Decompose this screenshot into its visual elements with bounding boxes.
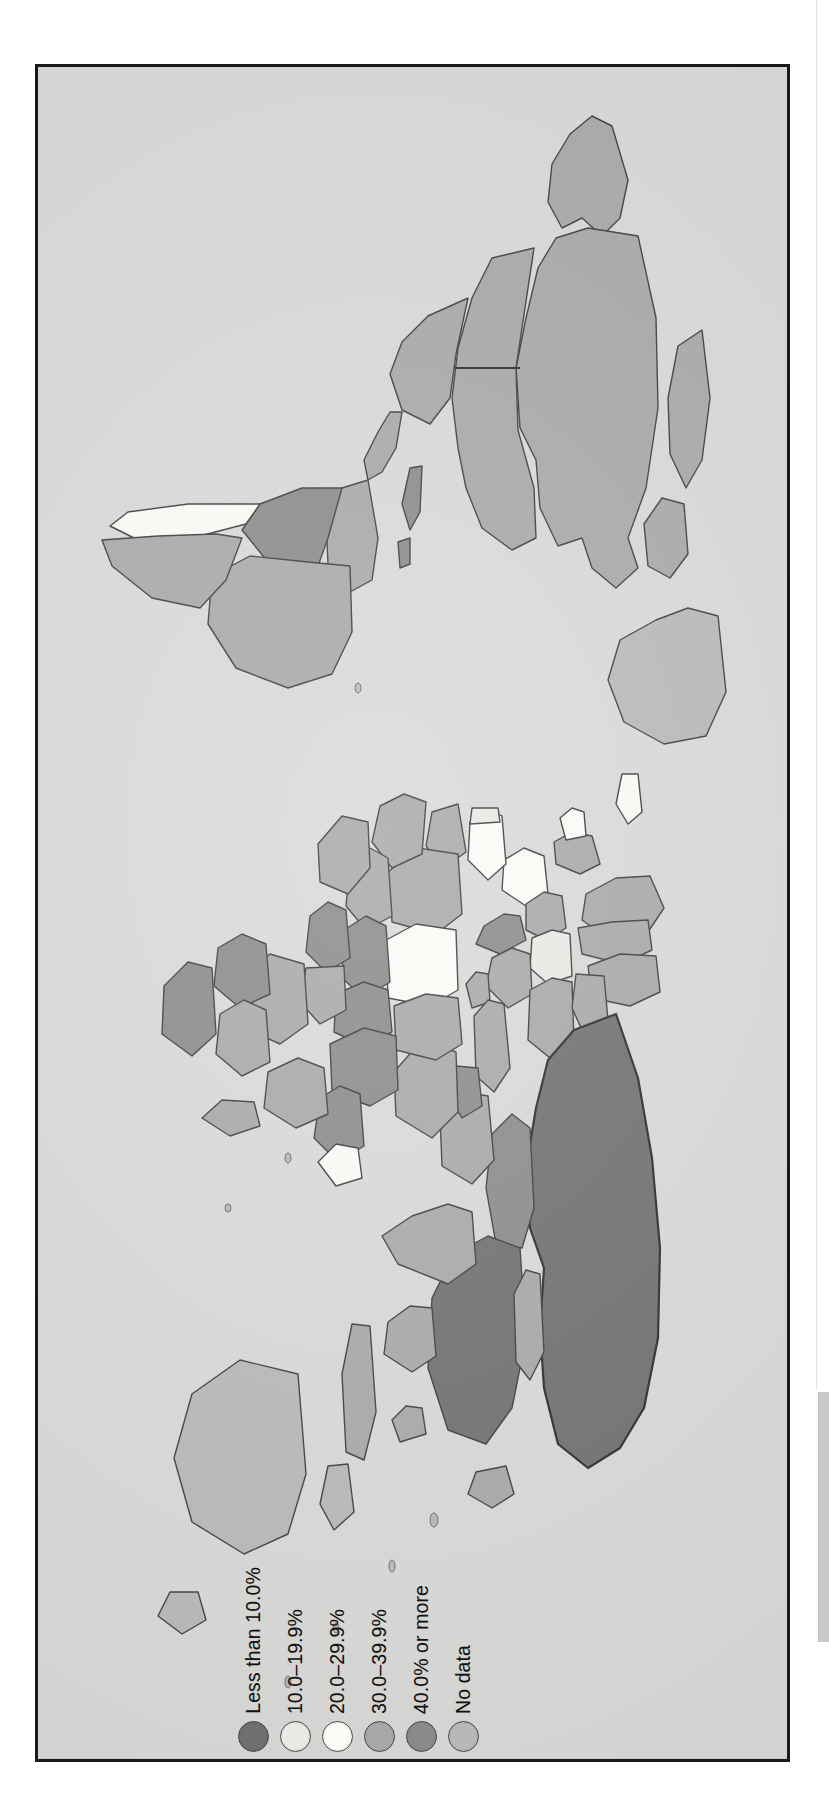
legend-item-20-to-29[interactable]: 20.0–29.9% <box>322 1609 353 1752</box>
region-portugal <box>470 808 500 824</box>
legend-item-30-to-39[interactable]: 30.0–39.9% <box>364 1609 395 1752</box>
legend-swatch-circle <box>406 1721 437 1752</box>
map-figure-frame: .ct{stroke:#3c3c3c;stroke-width:1.4;stro… <box>35 64 790 1762</box>
legend-swatch-circle <box>280 1721 311 1752</box>
region-mongolia <box>514 1270 544 1380</box>
legend-label: 20.0–29.9% <box>326 1609 349 1714</box>
legend-label: 10.0–19.9% <box>284 1609 307 1714</box>
legend-swatch-circle <box>448 1721 479 1752</box>
legend-swatch-circle <box>322 1721 353 1752</box>
map-description: World choropleth map shaded in six grey … <box>0 0 1 1</box>
region-egypt <box>394 994 462 1060</box>
legend-label: Less than 10.0% <box>242 1567 265 1714</box>
region-kazakhstan <box>486 1114 534 1248</box>
map-rotated-canvas: .ct{stroke:#3c3c3c;stroke-width:1.4;stro… <box>38 68 788 1758</box>
legend-label: No data <box>452 1645 475 1714</box>
world-map-svg: .ct{stroke:#3c3c3c;stroke-width:1.4;stro… <box>38 68 788 1758</box>
legend-swatch-circle <box>364 1721 395 1752</box>
legend-swatch-circle <box>238 1721 269 1752</box>
legend-label: 40.0% or more <box>410 1585 433 1714</box>
legend-item-40-or-more[interactable]: 40.0% or more <box>406 1585 437 1752</box>
page-edge-rule <box>816 0 817 1390</box>
legend-row: Less than 10.0% 10.0–19.9% 20.0–29.9% 30… <box>238 1567 479 1752</box>
map-legend: Less than 10.0% 10.0–19.9% 20.0–29.9% 30… <box>238 1567 479 1752</box>
region-libya <box>386 924 458 1006</box>
legend-item-less-than-10[interactable]: Less than 10.0% <box>238 1567 269 1752</box>
region-hispaniola <box>398 538 410 568</box>
legend-label: 30.0–39.9% <box>368 1609 391 1714</box>
legend-item-no-data[interactable]: No data <box>448 1645 479 1752</box>
legend-item-10-to-19[interactable]: 10.0–19.9% <box>280 1609 311 1752</box>
page-side-shadow-block <box>818 1392 829 1642</box>
